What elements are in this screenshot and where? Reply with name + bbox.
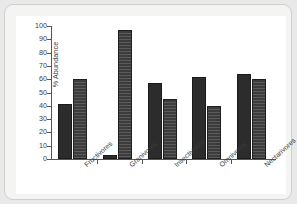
- x-axis-tick-mark: [231, 160, 232, 164]
- bar: [252, 79, 266, 159]
- x-axis-category-labels: FructivoresGranivoresInsectivoresOmnivor…: [52, 163, 276, 194]
- y-axis-tick-mark: [47, 66, 51, 67]
- bar-chart: % Abundance 1009080706050403020100 Fruct…: [16, 16, 286, 194]
- y-axis-tick-label: 30: [29, 115, 47, 122]
- bar: [103, 155, 117, 159]
- x-axis-tick-mark: [97, 160, 98, 164]
- x-axis-category-label: Nectarivores: [263, 163, 268, 168]
- x-axis-tick-mark: [142, 160, 143, 164]
- y-axis-tick-label: 10: [29, 142, 47, 149]
- y-axis-tick-mark: [47, 53, 51, 54]
- y-axis-tick-mark: [47, 106, 51, 107]
- bars-layer: [52, 26, 276, 159]
- x-axis-category-label: Omnivores: [218, 163, 223, 168]
- y-axis-tick-mark: [47, 146, 51, 147]
- y-axis-tick-label: 0: [29, 155, 47, 162]
- bar: [73, 79, 87, 159]
- x-axis-category-label: Granivores: [128, 163, 133, 168]
- y-axis-tick-mark: [47, 159, 51, 160]
- figure-card: % Abundance 1009080706050403020100 Fruct…: [0, 0, 297, 204]
- figure-card-frame: % Abundance 1009080706050403020100 Fruct…: [4, 4, 292, 200]
- bar: [58, 104, 72, 159]
- y-axis-tick-label: 90: [29, 36, 47, 43]
- y-axis-tick-label: 100: [29, 22, 47, 29]
- y-axis-tick-labels: 1009080706050403020100: [27, 16, 47, 194]
- y-axis-tick-label: 70: [29, 62, 47, 69]
- x-axis-category-label: Fructivores: [83, 163, 88, 168]
- bar: [163, 99, 177, 159]
- bar: [118, 30, 132, 159]
- y-axis-tick-mark: [47, 132, 51, 133]
- y-axis-tick-mark: [47, 93, 51, 94]
- y-axis-tick-label: 60: [29, 76, 47, 83]
- x-axis-category-label: Insectivores: [173, 163, 178, 168]
- y-axis-tick-mark: [47, 119, 51, 120]
- y-axis-tick-mark: [47, 39, 51, 40]
- chart-plot-panel: % Abundance 1009080706050403020100 Fruct…: [16, 16, 286, 194]
- y-axis-tick-mark: [47, 79, 51, 80]
- x-axis-tick-mark: [186, 160, 187, 164]
- y-axis-tick-label: 40: [29, 102, 47, 109]
- y-axis-tick-label: 80: [29, 49, 47, 56]
- bar: [207, 106, 221, 159]
- y-axis-tick-mark: [47, 26, 51, 27]
- y-axis-tick-label: 20: [29, 129, 47, 136]
- y-axis-tick-label: 50: [29, 89, 47, 96]
